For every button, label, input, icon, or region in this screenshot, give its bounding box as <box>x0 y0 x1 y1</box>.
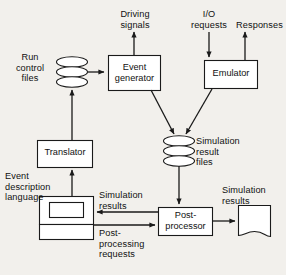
run-control-files-disk-icon <box>57 57 88 87</box>
terminal-icon <box>40 197 94 240</box>
simulation-result-files-disk-icon <box>164 136 195 166</box>
event-description-language-label: Event description language <box>5 171 67 203</box>
simulation-result-files-label: Simulation result files <box>196 136 256 168</box>
event-generator-label: Event generator <box>108 62 161 83</box>
arrow-eventgen-to-simresultfiles <box>151 90 174 134</box>
simulation-results-edge-label: Simulation results <box>99 190 159 211</box>
post-processor-label: Post- processor <box>158 210 213 231</box>
simulation-results-document-icon <box>239 206 271 237</box>
emulator-label: Emulator <box>204 68 258 79</box>
run-control-files-label: Run control files <box>6 52 54 84</box>
arrow-emulator-to-simresultfiles <box>186 89 212 134</box>
translator-label: Translator <box>37 147 93 158</box>
driving-signals-label: Driving signals <box>110 9 160 30</box>
simulation-results-doc-label: Simulation results <box>222 185 284 206</box>
responses-label: Responses <box>233 20 286 31</box>
post-processing-requests-label: Post- processing requests <box>99 228 161 260</box>
io-requests-label: I/O requests <box>184 9 234 30</box>
dataflow-diagram: Run control files Event generator Emulat… <box>0 0 286 275</box>
